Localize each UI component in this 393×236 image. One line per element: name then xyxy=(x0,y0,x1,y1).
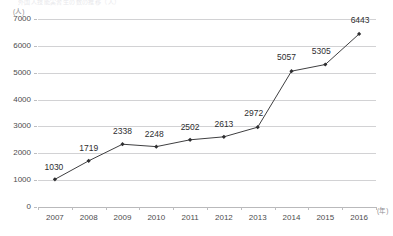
data-point-label: 2613 xyxy=(214,120,233,129)
x-tick-mark xyxy=(342,207,343,210)
data-point-label: 2972 xyxy=(244,109,263,118)
x-tick-mark xyxy=(139,207,140,210)
y-tick-mark xyxy=(34,180,37,181)
x-tick-mark xyxy=(72,207,73,210)
plot-area: 01000200030004000500060007000 2007200820… xyxy=(38,19,376,207)
x-tick-mark xyxy=(241,207,242,210)
y-tick-mark xyxy=(34,46,37,47)
y-tick-label: 1000 xyxy=(13,176,31,184)
y-tick-mark xyxy=(34,73,37,74)
y-tick-label: 0 xyxy=(27,203,31,211)
y-tick-label: 2000 xyxy=(13,149,31,157)
x-tick-mark xyxy=(207,207,208,210)
x-tick-label: 2007 xyxy=(46,213,64,222)
series-polyline xyxy=(55,34,359,179)
x-tick-label: 2013 xyxy=(249,213,267,222)
x-tick-label: 2016 xyxy=(350,213,368,222)
x-tick-mark xyxy=(38,207,39,210)
data-point-marker xyxy=(188,138,192,142)
y-tick-mark xyxy=(34,100,37,101)
data-point-label: 6443 xyxy=(351,16,370,25)
data-point-label: 5305 xyxy=(312,47,331,56)
x-tick-mark xyxy=(275,207,276,210)
y-tick-label: 5000 xyxy=(13,69,31,77)
data-point-marker xyxy=(154,145,158,149)
x-tick-mark xyxy=(106,207,107,210)
x-tick-label: 2010 xyxy=(147,213,165,222)
y-tick-label: 7000 xyxy=(13,15,31,23)
data-point-label: 5057 xyxy=(277,53,296,62)
y-tick-label: 4000 xyxy=(13,96,31,104)
x-tick-label: 2011 xyxy=(181,213,198,222)
data-point-label: 2502 xyxy=(181,123,200,132)
x-tick-label: 2009 xyxy=(114,213,132,222)
x-axis-unit-label: (年) xyxy=(377,207,388,215)
x-tick-label: 2012 xyxy=(215,213,233,222)
data-point-marker xyxy=(53,177,57,181)
y-tick-mark xyxy=(34,153,37,154)
y-tick-label: 3000 xyxy=(13,122,31,130)
y-tick-mark xyxy=(34,126,37,127)
line-chart: 外国人技能実習生の数の推移（人） (人) (年) 010002000300040… xyxy=(0,0,393,236)
y-tick-mark xyxy=(34,207,37,208)
x-tick-label: 2008 xyxy=(80,213,98,222)
data-point-label: 1719 xyxy=(79,144,98,153)
x-tick-mark xyxy=(376,207,377,210)
x-tick-mark xyxy=(308,207,309,210)
data-point-label: 2338 xyxy=(113,127,132,136)
data-point-label: 2248 xyxy=(145,130,164,139)
chart-title-faint: 外国人技能実習生の数の推移（人） xyxy=(18,0,318,6)
data-point-marker xyxy=(222,135,226,139)
x-tick-label: 2014 xyxy=(283,213,301,222)
data-point-marker xyxy=(120,142,124,146)
y-tick-label: 6000 xyxy=(13,42,31,50)
x-tick-mark xyxy=(173,207,174,210)
data-point-label: 1030 xyxy=(44,163,63,172)
data-point-marker xyxy=(87,159,91,163)
y-tick-mark xyxy=(34,19,37,20)
x-tick-label: 2015 xyxy=(316,213,334,222)
